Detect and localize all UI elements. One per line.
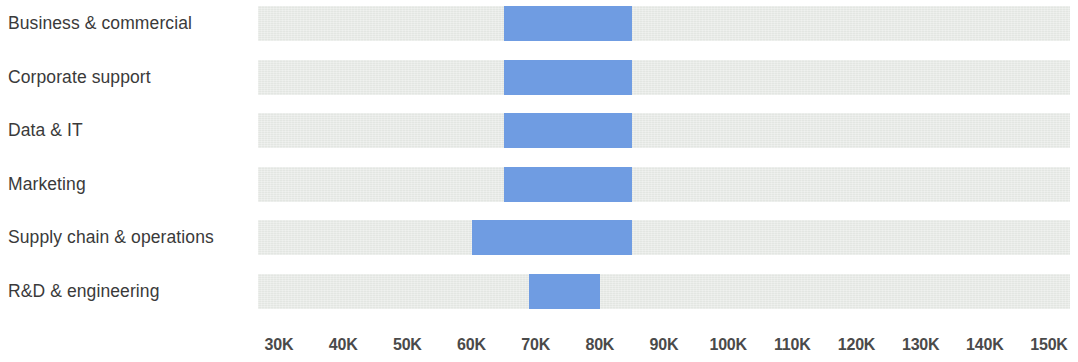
x-axis-tick-label: 140K: [966, 336, 1003, 354]
range-bar-chart: Business & commercialCorporate supportDa…: [0, 0, 1078, 362]
bar-track: [258, 274, 1070, 309]
x-axis-tick-label: 130K: [902, 336, 939, 354]
chart-rows: Business & commercialCorporate supportDa…: [0, 0, 1078, 330]
bar-track: [258, 220, 1070, 255]
category-label: Business & commercial: [8, 6, 253, 41]
category-label: R&D & engineering: [8, 274, 253, 309]
chart-row: R&D & engineering: [0, 274, 1078, 309]
range-bar[interactable]: [504, 6, 632, 41]
chart-row: Marketing: [0, 167, 1078, 202]
category-label: Supply chain & operations: [8, 220, 253, 255]
range-bar[interactable]: [504, 60, 632, 95]
range-bar[interactable]: [529, 274, 600, 309]
x-axis-tick-label: 70K: [521, 336, 550, 354]
chart-row: Corporate support: [0, 60, 1078, 95]
x-axis-tick-label: 30K: [265, 336, 294, 354]
chart-row: Data & IT: [0, 113, 1078, 148]
chart-row: Business & commercial: [0, 6, 1078, 41]
x-axis-tick-label: 80K: [585, 336, 614, 354]
chart-row: Supply chain & operations: [0, 220, 1078, 255]
x-axis-tick-label: 40K: [329, 336, 358, 354]
category-label: Data & IT: [8, 113, 253, 148]
range-bar[interactable]: [504, 167, 632, 202]
bar-track: [258, 113, 1070, 148]
category-label: Marketing: [8, 167, 253, 202]
x-axis-tick-label: 120K: [838, 336, 875, 354]
x-axis-tick-label: 100K: [709, 336, 746, 354]
x-axis-tick-label: 110K: [774, 336, 811, 354]
x-axis-tick-label: 50K: [393, 336, 422, 354]
x-axis-tick-label: 60K: [457, 336, 486, 354]
range-bar[interactable]: [472, 220, 632, 255]
bar-track: [258, 6, 1070, 41]
range-bar[interactable]: [504, 113, 632, 148]
x-axis-tick-label: 150K: [1030, 336, 1067, 354]
x-axis: 30K40K50K60K70K80K90K100K110K120K130K140…: [0, 330, 1078, 362]
bar-track: [258, 60, 1070, 95]
bar-track: [258, 167, 1070, 202]
x-axis-tick-label: 90K: [650, 336, 679, 354]
category-label: Corporate support: [8, 60, 253, 95]
